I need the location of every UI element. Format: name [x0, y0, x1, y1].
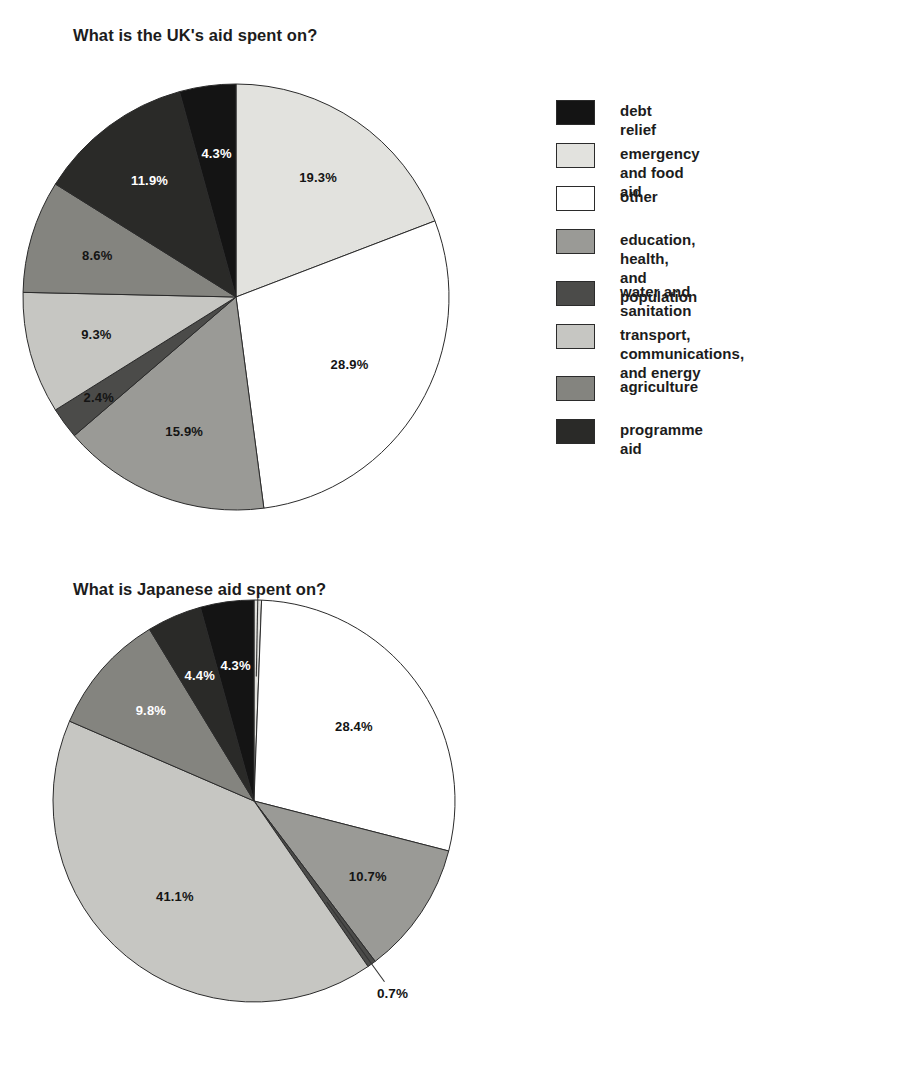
pie-slice-label: 10.7%: [349, 869, 387, 884]
legend-swatch-other: [556, 186, 595, 211]
pie-slice-label: 11.9%: [131, 173, 168, 188]
pie-slice-label: 4.3%: [201, 146, 232, 161]
pie-slice-label: 41.1%: [156, 889, 194, 904]
pie-slice-label: 19.3%: [299, 170, 337, 185]
pie-slice-label: 28.9%: [331, 357, 369, 372]
pie-slice-label: 15.9%: [165, 424, 203, 439]
legend-swatch-agriculture: [556, 376, 595, 401]
pie-slice-label: 4.3%: [220, 658, 251, 673]
pie-chart-uk: 19.3%28.9%15.9%2.4%9.3%8.6%11.9%4.3%: [0, 55, 520, 555]
pie-slice-callout-label: 0.7%: [377, 986, 408, 1001]
legend-label: water and sanitation: [620, 282, 691, 320]
pie-slice-label: 8.6%: [82, 248, 113, 263]
pie-slice-group: [53, 600, 455, 1002]
legend-label: agriculture: [620, 377, 698, 396]
legend-label: transport, communications, and energy: [620, 325, 744, 382]
chart-uk-aid: What is the UK's aid spent on? 19.3%28.9…: [0, 0, 905, 560]
pie-slice-label: 9.3%: [81, 327, 112, 342]
legend-swatch-emergency-and-food-aid: [556, 143, 595, 168]
pie-slice-label: 2.4%: [83, 390, 114, 405]
legend-swatch-debt-relief: [556, 100, 595, 125]
legend-swatch-education-health-population: [556, 229, 595, 254]
legend-label: debt relief: [620, 101, 656, 139]
pie-chart-japan: 0.6%28.4%10.7%0.7%41.1%9.8%4.4%4.3%: [0, 597, 520, 1089]
legend-swatch-programme-aid: [556, 419, 595, 444]
pie-slice-label: 9.8%: [136, 703, 167, 718]
pie-slice-label: 28.4%: [335, 719, 373, 734]
legend-swatch-transport-communications-energy: [556, 324, 595, 349]
legend-label: other: [620, 187, 658, 206]
pie-slice-label: 4.4%: [184, 668, 215, 683]
legend-label: programme aid: [620, 420, 703, 458]
chart-title-uk: What is the UK's aid spent on?: [73, 26, 317, 45]
chart-japanese-aid: What is Japanese aid spent on? 0.6%28.4%…: [0, 562, 905, 1089]
pie-slice-group: [23, 84, 449, 510]
legend-swatch-water-and-sanitation: [556, 281, 595, 306]
